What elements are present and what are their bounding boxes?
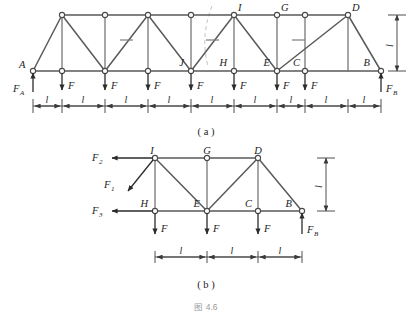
- caption-b: ( b ): [197, 279, 215, 291]
- b-label-f1: F: [103, 179, 111, 190]
- joint-i: [231, 12, 236, 17]
- joint-h: [231, 68, 236, 73]
- span-dim-label: l: [290, 94, 293, 105]
- joint-e: [274, 68, 279, 73]
- load-label: F: [196, 80, 204, 91]
- figure-b-group: I G D H E C B F 2 F 1 F 3 F F F F B: [91, 145, 335, 291]
- height-dimension-b: l: [313, 158, 335, 211]
- load-label: F: [110, 80, 118, 91]
- span-dim-label: l: [254, 94, 257, 105]
- b-label-b: B: [286, 198, 293, 209]
- diagonal-member: [277, 15, 348, 71]
- label-a-e: E: [263, 57, 271, 68]
- span-dim-label: l: [168, 94, 171, 105]
- applied-loads-b: F F F: [155, 213, 271, 234]
- span-dimension-b: l l l: [155, 245, 302, 263]
- b-load-label: F: [263, 223, 271, 234]
- joint-top: [102, 12, 107, 17]
- joint-g: [274, 12, 279, 17]
- height-dim-label: l: [384, 44, 395, 47]
- b-joint-i: [152, 155, 157, 160]
- joint-c: [302, 68, 307, 73]
- diagonal-member: [191, 15, 234, 71]
- diagonal-member: [234, 15, 277, 71]
- figure-sheet: A J H E C B I G D F A F B F F F F F: [0, 0, 412, 326]
- b-label-f3: F: [91, 205, 99, 216]
- b-span-dim-label: l: [231, 245, 234, 256]
- b-label-f2-sub: 2: [99, 158, 103, 166]
- diagonal-member: [62, 15, 105, 71]
- b-joint-d: [255, 155, 260, 160]
- joint-a: [30, 68, 35, 73]
- joint-j: [188, 68, 193, 73]
- figure-a-group: A J H E C B I G D F A F B F F F F F: [12, 2, 406, 138]
- b-label-fb: F: [306, 224, 314, 235]
- b-label-fb-sub: B: [314, 230, 319, 238]
- label-fa: F: [12, 83, 20, 94]
- label-a-h: H: [218, 57, 228, 68]
- left-end-post: [33, 15, 62, 71]
- height-dimension-a: l: [384, 15, 406, 71]
- applied-loads-a: F F F F F F F: [62, 73, 318, 91]
- joint-b: [378, 68, 383, 73]
- diagonal-member: [105, 15, 148, 71]
- label-a-i: I: [237, 2, 242, 13]
- b-right-end-post: [258, 158, 302, 211]
- joint-top: [59, 12, 64, 17]
- span-dim-label: l: [211, 94, 214, 105]
- label-a-c: C: [293, 57, 301, 68]
- joint-bottom: [102, 68, 107, 73]
- b-label-f2: F: [91, 152, 99, 163]
- label-a-a: A: [18, 59, 26, 70]
- span-dim-label: l: [82, 94, 85, 105]
- b-label-f1-sub: 1: [111, 185, 115, 193]
- b-label-c: C: [245, 198, 253, 209]
- joint-top: [302, 12, 307, 17]
- b-label-g: G: [203, 145, 211, 156]
- force-f1-arrow: [128, 160, 153, 191]
- caption-a: ( a ): [198, 126, 215, 138]
- b-load-label: F: [212, 223, 220, 234]
- b-joint-b: [299, 208, 304, 213]
- b-height-dim-label: l: [313, 185, 324, 188]
- load-label: F: [67, 80, 75, 91]
- span-dim-label: l: [325, 94, 328, 105]
- span-dim-label: l: [125, 94, 128, 105]
- b-label-i: I: [149, 145, 154, 156]
- label-a-g: G: [281, 2, 289, 13]
- label-a-d: D: [351, 2, 360, 13]
- load-label: F: [239, 80, 247, 91]
- span-dim-label: l: [363, 94, 366, 105]
- joint-top: [145, 12, 150, 17]
- span-dimension-a: l l l l l l l l l: [33, 94, 381, 113]
- span-dim-label: l: [46, 94, 49, 105]
- b-label-e: E: [193, 198, 201, 209]
- b-joint-h: [152, 208, 157, 213]
- load-label: F: [282, 80, 290, 91]
- load-label: F: [153, 80, 161, 91]
- b-label-f3-sub: 3: [98, 211, 103, 219]
- label-fb: F: [385, 83, 393, 94]
- label-a-b: B: [364, 57, 371, 68]
- truss-diagram-svg: A J H E C B I G D F A F B F F F F F: [0, 0, 412, 326]
- b-span-dim-label: l: [279, 245, 282, 256]
- b-load-label: F: [160, 223, 168, 234]
- joint-d: [345, 12, 350, 17]
- joint-bottom: [145, 68, 150, 73]
- joint-bottom: [59, 68, 64, 73]
- b-span-dim-label: l: [180, 245, 183, 256]
- b-joint-c: [255, 208, 260, 213]
- load-label: F: [310, 80, 318, 91]
- b-label-h: H: [139, 198, 149, 209]
- b-label-d: D: [253, 145, 262, 156]
- b-joint-e: [204, 208, 209, 213]
- label-fa-sub: A: [19, 89, 25, 97]
- joint-top: [188, 12, 193, 17]
- b-joint-g: [204, 155, 209, 160]
- label-fb-sub: B: [393, 89, 398, 97]
- diagonal-member: [148, 15, 191, 71]
- figure-caption: 图 4.6: [194, 302, 217, 312]
